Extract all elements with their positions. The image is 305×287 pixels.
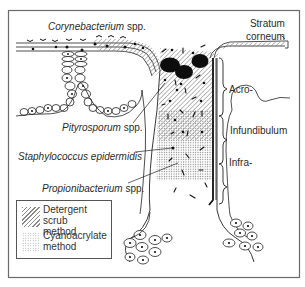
label-corynebacterium: Corynebacterium spp. xyxy=(48,21,146,32)
label-line: Stratum xyxy=(246,18,285,29)
label-stratum-corneum: Stratum corneum xyxy=(246,18,285,42)
label-line: corneum xyxy=(246,31,285,42)
legend-label: Detergent scrub xyxy=(43,204,111,226)
label-staphylococcus: Staphylococcus epidermidis xyxy=(18,151,142,162)
species-suffix: spp. xyxy=(121,122,143,133)
label-propionibacterium: Propionibacterium spp. xyxy=(42,183,144,194)
legend-item-cyanoacrylate: Cyanoacrylate method xyxy=(43,230,107,252)
stipple-swatch-icon xyxy=(22,232,40,252)
label-acro: Acro- xyxy=(229,84,253,95)
species-name: Pityrosporum xyxy=(62,122,121,133)
species-name: Staphylococcus epidermidis xyxy=(18,151,142,162)
species-name: Propionibacterium xyxy=(42,183,123,194)
species-name: Corynebacterium xyxy=(48,21,124,32)
legend-label: method xyxy=(43,241,107,252)
label-infra: Infra- xyxy=(229,157,252,168)
species-suffix: spp. xyxy=(123,183,145,194)
hatch-swatch-icon xyxy=(22,207,40,227)
label-infundibulum: Infundibulum xyxy=(230,125,287,136)
legend: Detergent scrub method Cyanoacrylate met… xyxy=(16,200,112,259)
species-suffix: spp. xyxy=(124,21,146,32)
legend-label: Cyanoacrylate xyxy=(43,230,107,241)
label-pityrosporum: Pityrosporum spp. xyxy=(62,122,143,133)
